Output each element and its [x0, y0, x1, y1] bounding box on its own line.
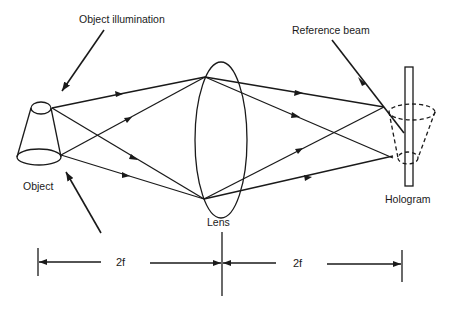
object-illumination-arrow-bottom: [66, 172, 101, 233]
dimension-label-left: 2f: [116, 256, 126, 268]
object-label: Object: [23, 180, 53, 192]
object-illumination-label: Object illumination: [79, 13, 165, 25]
object-rays: [52, 77, 205, 199]
reference-beam-arrow: [332, 40, 404, 133]
hologram-label: Hologram: [385, 193, 431, 205]
hologram-plate-icon: [405, 67, 413, 186]
hologram-recording-diagram: Object illumination Reference beam Objec…: [0, 0, 455, 313]
image-rays: [204, 77, 393, 199]
dimension-label-right: 2f: [293, 257, 303, 269]
reference-beam-label: Reference beam: [292, 24, 370, 36]
dimension-lines: [38, 232, 402, 296]
object-illumination-arrow-top: [62, 30, 104, 91]
object-icon: [17, 102, 61, 165]
image-icon: [389, 104, 435, 164]
